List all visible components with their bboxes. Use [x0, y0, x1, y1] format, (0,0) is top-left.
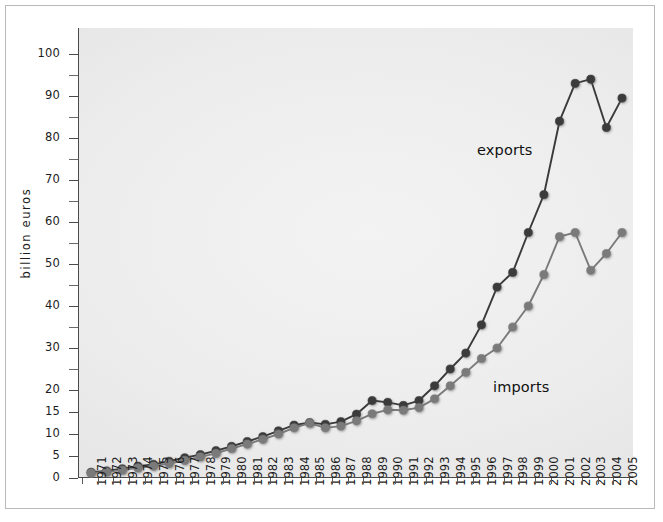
data-point-imports-1998	[509, 323, 517, 331]
data-point-exports-1998	[509, 268, 517, 276]
data-point-imports-1984	[290, 424, 298, 432]
data-point-imports-1985	[306, 419, 314, 427]
data-point-exports-1990	[384, 398, 392, 406]
data-point-imports-1971	[87, 469, 95, 477]
data-point-exports-2005	[618, 94, 626, 102]
data-point-exports-2004	[602, 123, 610, 131]
data-point-imports-1988	[352, 417, 360, 425]
data-point-imports-1981	[243, 440, 251, 448]
data-point-imports-1986	[321, 424, 329, 432]
data-point-exports-1993	[430, 382, 438, 390]
data-point-imports-1973	[118, 466, 126, 474]
data-point-imports-1982	[259, 435, 267, 443]
data-point-imports-2002	[571, 228, 579, 236]
series-line-imports	[91, 233, 622, 474]
data-point-imports-1999	[524, 302, 532, 310]
data-point-exports-2001	[555, 117, 563, 125]
data-point-exports-1997	[493, 283, 501, 291]
data-point-imports-1976	[165, 459, 173, 467]
data-point-exports-1996	[477, 321, 485, 329]
series-canvas	[79, 28, 634, 478]
data-point-imports-1979	[212, 449, 220, 457]
data-point-imports-1994	[446, 382, 454, 390]
series-imports	[87, 228, 626, 477]
series-label-exports: exports	[477, 142, 533, 158]
data-point-exports-2002	[571, 79, 579, 87]
data-point-imports-2000	[540, 270, 548, 278]
data-point-exports-1995	[462, 349, 470, 357]
series-label-imports: imports	[493, 379, 549, 395]
data-point-imports-2005	[618, 228, 626, 236]
data-point-exports-1989	[368, 396, 376, 404]
data-point-imports-1980	[227, 444, 235, 452]
data-point-imports-1995	[462, 368, 470, 376]
data-point-imports-1997	[493, 344, 501, 352]
data-point-imports-1989	[368, 410, 376, 418]
data-point-imports-2001	[555, 233, 563, 241]
data-point-imports-1992	[415, 404, 423, 412]
data-point-imports-2003	[587, 266, 595, 274]
data-point-imports-2004	[602, 249, 610, 257]
data-point-imports-1983	[274, 430, 282, 438]
data-point-imports-1991	[399, 406, 407, 414]
data-point-imports-1977	[181, 456, 189, 464]
data-point-imports-1978	[196, 453, 204, 461]
plot-area	[78, 28, 633, 478]
chart-figure: billion euros 05101520304050607080901001…	[0, 0, 663, 522]
data-point-exports-1994	[446, 365, 454, 373]
data-point-exports-2003	[587, 75, 595, 83]
data-point-imports-1972	[103, 468, 111, 476]
data-point-imports-1987	[337, 422, 345, 430]
data-point-imports-1996	[477, 354, 485, 362]
data-point-imports-1993	[430, 395, 438, 403]
data-point-exports-1999	[524, 228, 532, 236]
data-point-exports-2000	[540, 191, 548, 199]
data-point-imports-1990	[384, 406, 392, 414]
data-point-imports-1974	[134, 464, 142, 472]
data-point-imports-1975	[149, 462, 157, 470]
